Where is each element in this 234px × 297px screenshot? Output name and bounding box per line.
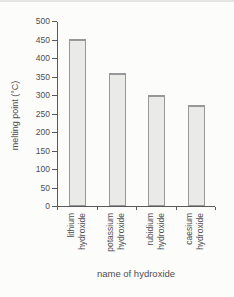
page-edge-artifact — [0, 0, 234, 2]
y-tick-label: 150 — [24, 146, 50, 157]
y-tick-label: 100 — [24, 164, 50, 175]
plot-area — [57, 22, 215, 207]
bar-potassium-hydroxide — [109, 73, 126, 206]
y-tick-label: 500 — [24, 16, 50, 27]
category-label-line: hydroxide — [195, 213, 206, 267]
x-tick-mark — [97, 207, 98, 210]
x-tick-mark — [136, 207, 137, 210]
category-label-line: hydroxide — [77, 213, 88, 267]
bar-rubidium-hydroxide — [148, 95, 165, 206]
x-axis-title: name of hydroxide — [47, 268, 225, 279]
y-tick-label: 200 — [24, 127, 50, 138]
category-label-lithium: lithiumhydroxide — [66, 213, 88, 267]
y-tick-label: 450 — [24, 35, 50, 46]
x-tick-mark — [176, 207, 177, 210]
bar-caesium-hydroxide — [188, 105, 205, 206]
y-tick-label: 350 — [24, 72, 50, 83]
category-label-line: hydroxide — [116, 213, 127, 267]
category-label-rubidium: rubidiumhydroxide — [145, 213, 167, 267]
category-label-potassium: potassiumhydroxide — [105, 213, 127, 267]
bar-lithium-hydroxide — [69, 39, 86, 206]
melting-point-bar-chart: melting point (°C) 050100150200250300350… — [0, 0, 234, 297]
y-axis-title-wrap: melting point (°C) — [9, 46, 22, 186]
y-tick-label: 400 — [24, 53, 50, 64]
category-label-line: potassium — [105, 213, 116, 267]
x-tick-mark — [57, 207, 58, 210]
category-label-line: caesium — [184, 213, 195, 267]
category-label-line: lithium — [66, 213, 77, 267]
y-tick-label: 50 — [24, 183, 50, 194]
x-tick-mark — [215, 207, 216, 210]
y-tick-label: 300 — [24, 90, 50, 101]
category-label-caesium: caesiumhydroxide — [184, 213, 206, 267]
y-tick-label: 250 — [24, 109, 50, 120]
y-tick-label: 0 — [24, 201, 50, 212]
category-label-line: hydroxide — [156, 213, 167, 267]
category-label-line: rubidium — [145, 213, 156, 267]
y-axis-title: melting point (°C) — [10, 81, 20, 151]
